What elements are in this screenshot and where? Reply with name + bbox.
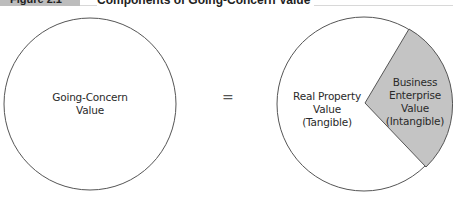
going-concern-label: Going-Concern Value [40,91,140,117]
equals-operator: = [222,89,234,105]
tangible-label-line1: Real Property [289,90,365,103]
tangible-label-line2: Value (Tangible) [289,103,365,129]
intangible-label: Business Enterprise Value (Intangible) [383,76,447,128]
intangible-label-line4: (Intangible) [383,115,447,128]
going-concern-label-line1: Going-Concern [40,91,140,104]
intangible-label-line3: Value [383,102,447,115]
intangible-label-line1: Business [383,76,447,89]
tangible-label: Real Property Value (Tangible) [289,90,365,129]
going-concern-label-line2: Value [40,104,140,117]
intangible-label-line2: Enterprise [383,89,447,102]
